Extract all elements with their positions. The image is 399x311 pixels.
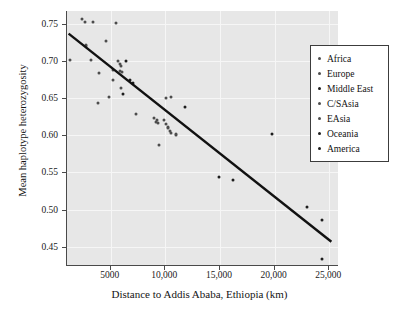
data-point [169, 131, 172, 134]
y-tick-label: 0.50 [41, 205, 58, 215]
legend-box: AfricaEuropeMiddle EastC/SAsiaEAsiaOcean… [310, 45, 389, 162]
data-point [69, 59, 72, 62]
data-point [131, 81, 134, 84]
y-tick-label: 0.60 [41, 130, 58, 140]
legend-label: America [327, 144, 360, 154]
y-tick-mark [62, 135, 66, 136]
plot-area [66, 11, 338, 266]
y-tick-mark [62, 247, 66, 248]
gridline-horizontal [67, 24, 338, 25]
data-point [170, 96, 173, 99]
legend-marker-icon [318, 132, 321, 135]
x-tick-mark [219, 266, 220, 270]
data-point [97, 102, 100, 105]
data-point [120, 65, 123, 68]
legend-label: Oceania [327, 129, 358, 139]
gridline-vertical [220, 11, 221, 265]
y-tick-mark [62, 61, 66, 62]
legend-item-oceania[interactable]: Oceania [311, 126, 388, 141]
data-point [108, 95, 111, 98]
legend-marker-icon [318, 102, 321, 105]
data-point [157, 143, 160, 146]
legend-label: C/SAsia [327, 99, 359, 109]
legend-label: Middle East [327, 84, 373, 94]
gridline-vertical [165, 11, 166, 265]
legend-item-america[interactable]: America [311, 141, 388, 156]
x-tick-mark [164, 266, 165, 270]
data-point [111, 78, 114, 81]
legend-item-c-sasia[interactable]: C/SAsia [311, 96, 388, 111]
y-tick-mark [62, 24, 66, 25]
legend-label: EAsia [327, 114, 350, 124]
data-point [128, 79, 131, 82]
gridline-horizontal [67, 61, 338, 62]
data-point [165, 97, 168, 100]
gridline-vertical [275, 11, 276, 265]
legend-item-africa[interactable]: Africa [311, 51, 388, 66]
y-tick-mark [62, 210, 66, 211]
gridline-horizontal [67, 172, 338, 173]
x-tick-mark [274, 266, 275, 270]
legend-marker-icon [318, 87, 321, 90]
data-point [105, 40, 108, 43]
gridline-horizontal [67, 135, 338, 136]
data-point [125, 60, 128, 63]
x-tick-mark [110, 266, 111, 270]
data-point [89, 58, 92, 61]
x-tick-label: 25,000 [315, 270, 341, 280]
data-point [97, 71, 100, 74]
x-tick-label: 20,000 [261, 270, 287, 280]
data-point [184, 105, 187, 108]
data-point [115, 21, 118, 24]
x-tick-label: 10,000 [151, 270, 177, 280]
regression-trendline [67, 11, 338, 265]
data-point [271, 132, 274, 135]
y-tick-label: 0.45 [41, 242, 58, 252]
y-tick-label: 0.70 [41, 56, 58, 66]
legend-item-easia[interactable]: EAsia [311, 111, 388, 126]
data-point [305, 205, 308, 208]
legend-marker-icon [318, 147, 321, 150]
y-axis-label: Mean haplotype heterozygosity [17, 41, 28, 221]
data-point [156, 119, 159, 122]
gridline-horizontal [67, 210, 338, 211]
data-point [84, 20, 87, 23]
y-tick-mark [62, 98, 66, 99]
x-tick-label: 15,000 [206, 270, 232, 280]
y-tick-label: 0.55 [41, 167, 58, 177]
legend-item-europe[interactable]: Europe [311, 66, 388, 81]
legend-label: Africa [327, 54, 351, 64]
data-point [92, 20, 95, 23]
data-point [232, 178, 235, 181]
data-point [135, 112, 138, 115]
data-point [85, 45, 88, 48]
data-point [122, 93, 125, 96]
gridline-vertical [111, 11, 112, 265]
data-point [121, 71, 124, 74]
legend-item-middle-east[interactable]: Middle East [311, 81, 388, 96]
y-tick-mark [62, 172, 66, 173]
gridline-horizontal [67, 98, 338, 99]
gridline-horizontal [67, 247, 338, 248]
data-point [156, 122, 159, 125]
legend-marker-icon [318, 72, 321, 75]
data-point [321, 258, 324, 261]
legend-marker-icon [318, 117, 321, 120]
scatter-plot-figure: 0.450.500.550.600.650.700.75 500010,0001… [0, 0, 399, 311]
y-tick-label: 0.65 [41, 93, 58, 103]
data-point [163, 119, 166, 122]
legend-label: Europe [327, 69, 354, 79]
x-tick-label: 5000 [100, 270, 119, 280]
data-point [112, 68, 115, 71]
x-tick-mark [328, 266, 329, 270]
legend-marker-icon [318, 57, 321, 60]
data-point [119, 86, 122, 89]
data-point [320, 219, 323, 222]
data-point [175, 133, 178, 136]
data-point [217, 175, 220, 178]
y-tick-label: 0.75 [41, 19, 58, 29]
x-axis-label: Distance to Addis Ababa, Ethiopia (km) [0, 288, 399, 300]
